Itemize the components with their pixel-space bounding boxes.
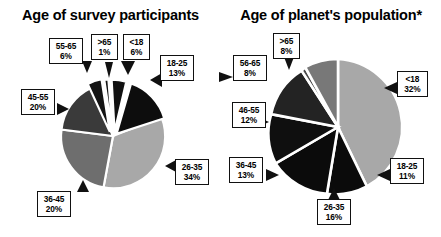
chart-panel-planet-population: Age of planet's population*	[221, 0, 441, 237]
callout-tail-lt-18	[121, 61, 135, 75]
callout-range: >65	[277, 36, 297, 46]
callout-range: <18	[401, 74, 425, 84]
callout-lt-18: <18 6%	[123, 34, 150, 60]
callout-55-65: 55-65 6%	[49, 38, 83, 64]
callout-36-45: 36-45 20%	[37, 191, 71, 217]
callout-pct: 20%	[41, 204, 68, 214]
callout-26-35: 26-35 16%	[317, 199, 351, 225]
callout-tail-gt-65	[105, 62, 113, 78]
callout-gt-65: >65 8%	[273, 33, 300, 59]
pie-slice-36-45	[61, 130, 113, 188]
callout-tail-36-45	[77, 180, 89, 192]
callout-pct: 12%	[236, 115, 263, 125]
two-pie-chart-figure: Age of survey participants	[0, 0, 441, 237]
callout-tail-55-65	[82, 61, 92, 73]
callout-range: 26-35	[179, 162, 206, 172]
callout-pct: 6%	[127, 47, 147, 57]
callout-lt-18: <18 32%	[397, 71, 428, 97]
callout-46-55: 46-55 12%	[232, 102, 266, 128]
callout-tail-gt-65	[284, 57, 294, 70]
callout-range: 18-25	[164, 58, 191, 68]
callout-26-35: 26-35 34%	[175, 159, 209, 185]
callout-pct: 8%	[237, 68, 264, 78]
callout-range: 45-55	[25, 92, 52, 102]
callout-pct: 20%	[25, 102, 52, 112]
callout-pct: 13%	[164, 68, 191, 78]
callout-18-25: 18-25 11%	[390, 158, 424, 184]
callout-pct: 8%	[277, 46, 297, 56]
callout-pct: 16%	[321, 212, 348, 222]
callout-range: 36-45	[233, 160, 260, 170]
callout-range: 46-55	[236, 105, 263, 115]
callout-range: <18	[127, 37, 147, 47]
callout-pct: 13%	[233, 170, 260, 180]
callout-pct: 32%	[401, 84, 425, 94]
callout-range: 26-35	[321, 202, 348, 212]
callout-range: 56-65	[237, 58, 264, 68]
callout-pct: 6%	[53, 51, 80, 61]
callout-range: 55-65	[53, 41, 80, 51]
callout-pct: 11%	[394, 171, 421, 181]
callout-tail-18-25	[377, 169, 390, 181]
callout-pct: 34%	[179, 172, 206, 182]
chart-panel-survey-participants: Age of survey participants	[0, 0, 221, 237]
callout-18-25: 18-25 13%	[160, 55, 194, 81]
callout-range: >65	[95, 37, 115, 47]
pie-slices-survey	[61, 79, 165, 188]
callout-range: 18-25	[394, 161, 421, 171]
callout-56-65: 56-65 8%	[233, 55, 267, 81]
callout-gt-65: >65 1%	[91, 34, 118, 60]
callout-tail-45-55	[57, 103, 69, 115]
callout-tail-56-65	[219, 72, 233, 82]
callout-range: 36-45	[41, 194, 68, 204]
callout-tail-36-45	[266, 169, 279, 181]
callout-45-55: 45-55 20%	[21, 89, 55, 115]
callout-pct: 1%	[95, 47, 115, 57]
callout-tail-lt-18	[384, 82, 397, 94]
callout-36-45: 36-45 13%	[229, 157, 263, 183]
